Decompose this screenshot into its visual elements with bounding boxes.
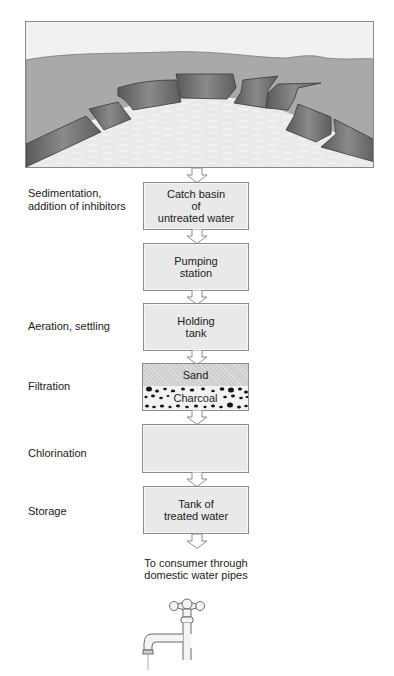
faucet-icon: [138, 590, 228, 676]
box-text: tank: [186, 327, 207, 339]
flow-arrow-icon: [186, 168, 208, 183]
reservoir-scene-icon: [26, 22, 374, 168]
stage-label-storage: Storage: [28, 505, 67, 518]
consumer-caption: To consumer through domestic water pipes: [140, 557, 252, 581]
caption-line: domestic water pipes: [140, 569, 252, 581]
label-line: addition of inhibitors: [28, 200, 126, 213]
stage-label-aeration: Aeration, settling: [28, 320, 110, 333]
box-text: station: [180, 267, 212, 279]
sand-layer: Sand: [143, 364, 248, 386]
label-line: Sedimentation,: [28, 187, 126, 200]
sand-label: Sand: [183, 369, 209, 381]
box-text: Tank of: [178, 498, 213, 510]
charcoal-label: Charcoal: [172, 392, 218, 404]
chlorination-box: [142, 424, 249, 473]
box-text: Holding: [177, 315, 214, 327]
flow-arrow-icon: [186, 410, 208, 425]
box-text: Catch basin: [167, 188, 225, 200]
pumping-station-box: Pumping station: [143, 243, 249, 291]
charcoal-layer: Charcoal: [143, 386, 248, 410]
filter-box: Sand Charcoal: [142, 363, 249, 411]
stage-label-chlorination: Chlorination: [28, 447, 87, 460]
storage-tank-box: Tank of treated water: [143, 486, 249, 534]
flow-arrow-icon: [186, 472, 208, 487]
box-text: of: [191, 200, 200, 212]
box-text: treated water: [164, 510, 228, 522]
flow-arrow-icon: [186, 534, 208, 549]
box-text: Pumping: [174, 255, 217, 267]
box-text: untreated water: [158, 212, 234, 224]
reservoir-illustration: [25, 21, 374, 168]
flow-arrow-icon: [186, 229, 208, 244]
stage-label-sedimentation: Sedimentation, addition of inhibitors: [28, 187, 126, 213]
caption-line: To consumer through: [140, 557, 252, 569]
catch-basin-box: Catch basin of untreated water: [143, 182, 249, 230]
holding-tank-box: Holding tank: [143, 303, 249, 351]
stage-label-filtration: Filtration: [28, 380, 70, 393]
